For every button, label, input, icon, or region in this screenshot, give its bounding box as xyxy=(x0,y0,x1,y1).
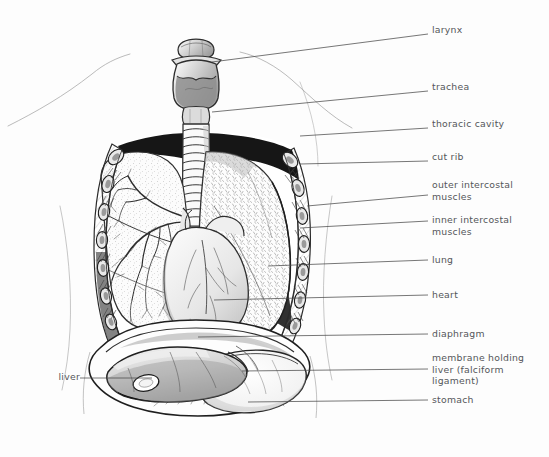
label-larynx: larynx xyxy=(432,24,463,36)
label-outer-intercostal-muscles: outer intercostal muscles xyxy=(432,179,513,202)
label-cut-rib: cut rib xyxy=(432,151,464,163)
label-diaphragm: diaphragm xyxy=(432,328,485,340)
label-trachea: trachea xyxy=(432,81,469,93)
label-thoracic-cavity: thoracic cavity xyxy=(432,118,504,130)
leader-outer-intercostal xyxy=(307,195,428,206)
larynx xyxy=(172,39,221,124)
label-inner-intercostal-muscles: inner intercostal muscles xyxy=(432,214,512,237)
label-falciform-ligament: membrane holding liver (falciform ligame… xyxy=(432,352,524,387)
leader-cut-rib xyxy=(300,161,428,164)
leader-inner-intercostal xyxy=(300,221,428,228)
anatomy-figure: larynx trachea thoracic cavity cut rib o… xyxy=(0,0,549,457)
leader-thoracic-cavity xyxy=(300,128,428,136)
label-lung: lung xyxy=(432,254,453,266)
label-heart: heart xyxy=(432,289,458,301)
leader-larynx xyxy=(212,34,428,62)
label-liver: liver xyxy=(26,371,80,383)
leader-trachea xyxy=(212,91,428,112)
label-stomach: stomach xyxy=(432,394,474,406)
